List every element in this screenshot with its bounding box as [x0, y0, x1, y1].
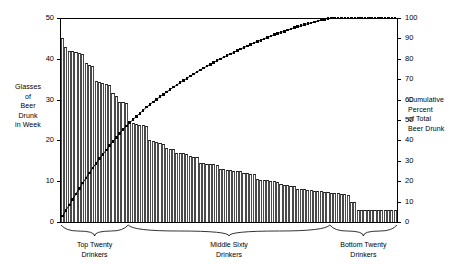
y-tick-label-left-0: 0: [34, 217, 54, 226]
y-axis-label-right-line-1: Percent: [408, 105, 456, 115]
y-tick-mark-right-10: [398, 18, 401, 19]
y-tick-mark-right-8: [398, 59, 401, 60]
y-tick-label-right-6: 60: [405, 95, 427, 104]
group-bracket-1: [128, 225, 330, 236]
group-label-1: Middle SixtyDrinkers: [184, 240, 274, 259]
y-tick-label-right-10: 100: [405, 13, 427, 22]
y-tick-label-right-3: 30: [405, 156, 427, 165]
group-label-2-line-1: Drinkers: [318, 250, 408, 260]
y-tick-label-right-1: 10: [405, 197, 427, 206]
group-brackets: [60, 224, 398, 238]
group-label-2: Bottom TwentyDrinkers: [318, 240, 408, 259]
group-bracket-2: [330, 225, 397, 236]
bracket-svg: [60, 224, 398, 238]
y-axis-label-left-line-4: in Week: [2, 120, 54, 130]
y-tick-mark-right-0: [398, 222, 401, 223]
y-tick-label-right-9: 90: [405, 33, 427, 42]
y-axis-label-left: GlassesofBeerDrunkin Week: [2, 82, 54, 130]
y-tick-mark-right-9: [398, 38, 401, 39]
y-tick-label-left-3: 30: [34, 95, 54, 104]
y-tick-label-left-1: 10: [34, 176, 54, 185]
y-tick-label-right-7: 70: [405, 74, 427, 83]
group-label-1-line-0: Middle Sixty: [184, 240, 274, 250]
group-label-1-line-1: Drinkers: [184, 250, 274, 260]
group-bracket-0: [61, 225, 128, 236]
y-tick-label-right-8: 80: [405, 54, 427, 63]
y-tick-mark-right-2: [398, 181, 401, 182]
y-axis-label-right-line-3: Beer Drunk: [408, 124, 456, 134]
group-label-2-line-0: Bottom Twenty: [318, 240, 408, 250]
y-tick-label-left-4: 40: [34, 54, 54, 63]
chart-figure: GlassesofBeerDrunkin Week CumulativePerc…: [0, 0, 456, 264]
y-tick-label-right-4: 40: [405, 135, 427, 144]
group-label-0-line-0: Top Twenty: [50, 240, 140, 250]
y-axis-label-left-line-3: Drunk: [2, 111, 54, 121]
y-axis-label-left-line-0: Glasses: [2, 82, 54, 92]
y-tick-mark-right-3: [398, 161, 401, 162]
y-tick-mark-right-7: [398, 79, 401, 80]
y-tick-label-right-0: 0: [405, 217, 427, 226]
y-tick-mark-right-5: [398, 120, 401, 121]
cumulative-line-series: [60, 18, 398, 223]
plot-area: [60, 18, 398, 222]
cumulative-curve-path: [60, 18, 398, 223]
y-tick-label-left-2: 20: [34, 135, 54, 144]
y-tick-label-right-2: 20: [405, 176, 427, 185]
group-label-0-line-1: Drinkers: [50, 250, 140, 260]
y-tick-mark-right-6: [398, 100, 401, 101]
y-tick-label-right-5: 50: [405, 115, 427, 124]
y-tick-label-left-5: 50: [34, 13, 54, 22]
y-tick-mark-right-4: [398, 140, 401, 141]
y-tick-mark-right-1: [398, 202, 401, 203]
group-label-0: Top TwentyDrinkers: [50, 240, 140, 259]
